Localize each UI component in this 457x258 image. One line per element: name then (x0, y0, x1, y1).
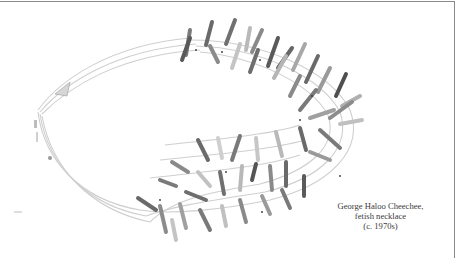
caption-title: fetish necklace (318, 211, 443, 221)
document-page: George Haloo Cheechee, fetish necklace (… (0, 0, 457, 258)
caption-artist: George Haloo Cheechee, (318, 201, 443, 211)
figure-caption: George Haloo Cheechee, fetish necklace (… (318, 201, 443, 231)
caption-date: (c. 1970s) (318, 221, 443, 231)
fetish-beads-upper (182, 20, 362, 124)
